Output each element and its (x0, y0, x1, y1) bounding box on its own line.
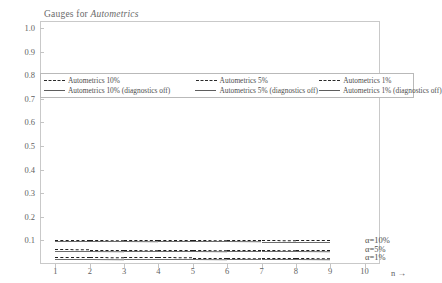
chart-title-italic: Autometrics (91, 9, 139, 19)
series-segment (193, 241, 227, 242)
y-tick-mark (40, 99, 44, 100)
y-tick-label: 0.9 (1, 47, 35, 57)
y-tick-label: 1.0 (1, 23, 35, 33)
series-segment (124, 251, 158, 252)
alpha-annotation: α=1% (365, 252, 386, 262)
series-segment (90, 259, 124, 260)
series-segment (124, 259, 158, 260)
legend-entry[interactable]: Autometrics 10% (diagnostics off) (44, 86, 195, 95)
legend-entry[interactable]: Autometrics 1% (319, 76, 411, 85)
y-tick-label: 0.4 (1, 165, 35, 175)
x-tick-mark (262, 264, 263, 268)
series-segment (158, 251, 192, 252)
legend-row: Autometrics 10% (diagnostics off)Automet… (44, 85, 411, 95)
series-segment (55, 241, 89, 242)
legend-label: Autometrics 1% (343, 76, 391, 85)
series-segment (227, 251, 261, 252)
y-tick-label: 0.7 (1, 94, 35, 104)
legend-label: Autometrics 10% (68, 76, 120, 85)
y-tick-label: 0.5 (1, 141, 35, 151)
series-segment (55, 259, 89, 260)
x-tick-mark (124, 264, 125, 268)
y-tick-label: 0.8 (1, 70, 35, 80)
y-tick-label: 0.2 (1, 212, 35, 222)
chart-title-plain: Gauges for (44, 9, 91, 19)
legend-line-icon (319, 87, 340, 94)
x-axis-title: n → (391, 268, 406, 278)
x-tick-mark (193, 264, 194, 268)
chart-legend: Autometrics 10%Autometrics 5%Autometrics… (40, 73, 414, 98)
y-tick-mark (40, 122, 44, 123)
legend-label: Autometrics 5% (diagnostics off) (219, 86, 318, 95)
x-tick-mark (158, 264, 159, 268)
y-tick-label: 0.1 (1, 235, 35, 245)
series-segment (262, 242, 296, 243)
legend-entry[interactable]: Autometrics 1% (diagnostics off) (319, 86, 411, 95)
y-tick-label: 0.6 (1, 117, 35, 127)
legend-row: Autometrics 10%Autometrics 5%Autometrics… (44, 75, 411, 85)
y-tick-mark (40, 217, 44, 218)
x-tick-mark (227, 264, 228, 268)
y-tick-mark (40, 193, 44, 194)
series-segment (262, 259, 296, 260)
x-tick-mark (55, 264, 56, 268)
plot-area (40, 21, 380, 264)
y-tick-mark (40, 170, 44, 171)
legend-line-icon (195, 87, 216, 94)
legend-line-icon (196, 77, 217, 84)
x-tick-mark (296, 264, 297, 268)
x-tick-mark (90, 264, 91, 268)
y-tick-label: 0.3 (1, 188, 35, 198)
y-tick-mark (40, 240, 44, 241)
y-tick-mark (40, 28, 44, 29)
legend-label: Autometrics 10% (diagnostics off) (68, 86, 170, 95)
y-tick-mark (40, 52, 44, 53)
legend-line-icon (44, 87, 65, 94)
alpha-annotation: α=10% (365, 235, 390, 245)
series-segment (296, 242, 330, 243)
series-segment (158, 241, 192, 242)
series-segment (227, 259, 261, 260)
legend-entry[interactable]: Autometrics 5% (196, 76, 320, 85)
series-segment (55, 251, 89, 252)
legend-entry[interactable]: Autometrics 5% (diagnostics off) (195, 86, 319, 95)
legend-line-icon (44, 77, 65, 84)
legend-entry[interactable]: Autometrics 10% (44, 76, 196, 85)
series-segment (90, 241, 124, 242)
series-segment (262, 251, 296, 252)
series-segment (158, 259, 192, 260)
legend-label: Autometrics 1% (diagnostics off) (343, 86, 442, 95)
chart-title: Gauges for Autometrics (44, 9, 139, 19)
y-tick-mark (40, 146, 44, 147)
legend-label: Autometrics 5% (220, 76, 268, 85)
x-tick-mark (330, 264, 331, 268)
legend-line-icon (319, 77, 340, 84)
x-tick-mark (365, 264, 366, 268)
series-segment (193, 259, 227, 260)
